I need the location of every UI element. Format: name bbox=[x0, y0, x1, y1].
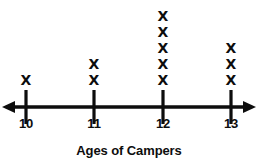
x-mark: X bbox=[218, 72, 244, 88]
arrow-right-icon bbox=[243, 101, 256, 113]
x-mark: X bbox=[150, 24, 176, 40]
x-mark: X bbox=[150, 56, 176, 72]
x-stack-12: XXXXX bbox=[150, 8, 176, 88]
x-mark: X bbox=[150, 8, 176, 24]
dot-plot-figure: X XX XXXXX XXX 10 11 12 13 Ages of Campe… bbox=[0, 0, 258, 167]
chart-caption: Ages of Campers bbox=[0, 143, 258, 158]
x-mark: X bbox=[218, 40, 244, 56]
x-mark: X bbox=[150, 40, 176, 56]
x-mark: X bbox=[81, 72, 107, 88]
x-stack-10: X bbox=[13, 72, 39, 88]
tick-label-12: 12 bbox=[143, 116, 183, 131]
x-mark: X bbox=[13, 72, 39, 88]
x-mark: X bbox=[150, 72, 176, 88]
tick-label-10: 10 bbox=[6, 116, 46, 131]
x-mark: X bbox=[218, 56, 244, 72]
x-stack-11: XX bbox=[81, 56, 107, 88]
arrow-left-icon bbox=[2, 101, 15, 113]
tick-label-13: 13 bbox=[211, 116, 251, 131]
x-stack-13: XXX bbox=[218, 40, 244, 88]
x-mark: X bbox=[81, 56, 107, 72]
tick-label-11: 11 bbox=[74, 116, 114, 131]
